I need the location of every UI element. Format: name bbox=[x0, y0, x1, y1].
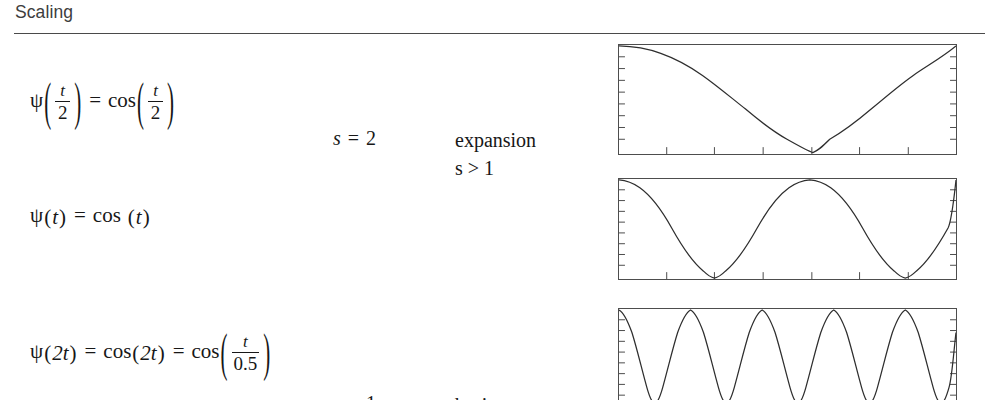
cosine-curve-4-cycles bbox=[619, 310, 956, 400]
cos-operator-2: cos bbox=[192, 339, 220, 363]
fraction-numerator: t bbox=[58, 82, 67, 101]
scaling-row-basic: ψ(t)=cos(t) s=1 basic s = 1 bbox=[0, 177, 990, 281]
psi-argument: 2t bbox=[52, 343, 68, 364]
cos-argument: 2t bbox=[140, 343, 156, 364]
psi-argument-group: (t) bbox=[43, 207, 67, 228]
paren-right: ) bbox=[167, 76, 174, 130]
psi-argument: t bbox=[52, 207, 58, 228]
fraction-denominator: 2 bbox=[149, 102, 163, 123]
description-expansion: expansion s > 1 bbox=[455, 126, 536, 183]
paren-left: ( bbox=[44, 343, 51, 364]
waveform-plot-basic bbox=[618, 178, 957, 280]
equals-sign: = bbox=[74, 203, 86, 227]
y-axis-ticks-left bbox=[619, 57, 625, 139]
scaling-row-expansion: ψ(t2)=cos(t2) s=2 expansion s > 1 bbox=[0, 44, 990, 156]
fraction-denominator: 0.5 bbox=[232, 353, 260, 374]
cos-operator: cos bbox=[108, 88, 136, 112]
y-axis-ticks-left bbox=[619, 320, 625, 395]
paren-left: ( bbox=[128, 207, 135, 228]
y-axis-ticks-right bbox=[950, 57, 956, 139]
paren-right: ) bbox=[59, 207, 66, 228]
cos-argument: t bbox=[136, 207, 142, 228]
fraction-t-over-2: t2 bbox=[148, 82, 163, 123]
x-axis-ticks bbox=[667, 147, 909, 154]
cosine-curve-1-cycle bbox=[619, 46, 956, 153]
equals-sign: = bbox=[89, 88, 101, 112]
page-title: Scaling bbox=[15, 2, 73, 23]
paren-left: ( bbox=[221, 327, 228, 381]
cosine-curve-2-cycles bbox=[619, 180, 956, 278]
cos-argument-group-2: (t0.5) bbox=[220, 333, 272, 374]
waveform-svg bbox=[619, 309, 956, 400]
paren-right: ) bbox=[263, 327, 270, 381]
paren-right: ) bbox=[158, 343, 165, 364]
fraction-numerator: t bbox=[241, 333, 250, 352]
psi-symbol: ψ bbox=[30, 88, 43, 112]
waveform-svg bbox=[619, 45, 956, 154]
formula-basic: ψ(t)=cos(t) bbox=[30, 205, 151, 228]
cos-argument-group: (t) bbox=[127, 207, 151, 228]
x-axis-ticks bbox=[667, 272, 909, 279]
description-label: expansion bbox=[455, 129, 536, 151]
scale-number: 2 bbox=[366, 127, 376, 149]
fraction-numerator: t bbox=[151, 82, 160, 101]
paren-left: ( bbox=[137, 76, 144, 130]
waveform-plot-expansion bbox=[618, 44, 957, 155]
equals-sign: = bbox=[348, 127, 359, 149]
paren-right: ) bbox=[143, 207, 150, 228]
fraction-t-over-0point5: t0.5 bbox=[232, 333, 260, 374]
scaling-row-compression: ψ(2t)=cos(2t)=cos(t0.5) s=0.5 compressio… bbox=[0, 307, 990, 400]
psi-argument-group: (2t) bbox=[43, 343, 77, 364]
waveform-plot-compression bbox=[618, 308, 957, 400]
waveform-svg bbox=[619, 179, 956, 279]
paren-right: ) bbox=[70, 343, 77, 364]
cos-operator: cos bbox=[93, 203, 121, 227]
cos-argument-group: (t2) bbox=[136, 82, 175, 123]
formula-expansion: ψ(t2)=cos(t2) bbox=[30, 82, 175, 123]
psi-argument-group: (t2) bbox=[43, 82, 82, 123]
cos-argument-group: (2t) bbox=[131, 343, 165, 364]
psi-symbol: ψ bbox=[30, 339, 43, 363]
cos-operator: cos bbox=[103, 339, 131, 363]
header-divider bbox=[14, 33, 985, 34]
paren-left: ( bbox=[44, 207, 51, 228]
scale-value-expansion: s=2 bbox=[333, 127, 376, 150]
equals-sign: = bbox=[85, 339, 97, 363]
fraction-denominator: 2 bbox=[56, 102, 70, 123]
psi-symbol: ψ bbox=[30, 203, 43, 227]
equals-sign-2: = bbox=[173, 339, 185, 363]
paren-left: ( bbox=[132, 343, 139, 364]
formula-compression: ψ(2t)=cos(2t)=cos(t0.5) bbox=[30, 333, 271, 374]
y-axis-ticks-left bbox=[619, 190, 625, 265]
paren-left: ( bbox=[44, 76, 51, 130]
paren-right: ) bbox=[74, 76, 81, 130]
scale-symbol: s bbox=[333, 127, 341, 149]
fraction-t-over-2: t2 bbox=[55, 82, 70, 123]
